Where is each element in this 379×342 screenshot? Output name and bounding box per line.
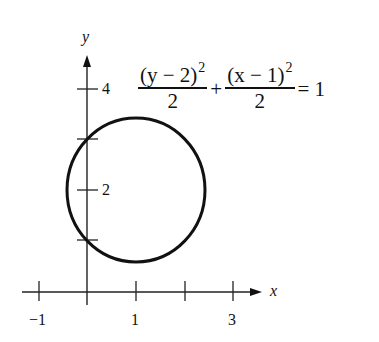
- exponent-y: 2: [198, 60, 205, 75]
- graph: −1 1 3 2 4 x y: [0, 0, 379, 342]
- y-tick-label-4: 4: [102, 80, 110, 97]
- y-axis-arrow-icon: [83, 55, 91, 67]
- equals-one: = 1: [298, 77, 326, 102]
- plus-sign: +: [210, 77, 222, 102]
- equation: (y − 2)2 2 + (x − 1)2 2 = 1: [138, 56, 328, 113]
- numerator-y-text: (y − 2): [140, 63, 197, 87]
- fraction-x-term: (x − 1)2 2: [225, 56, 294, 113]
- x-ticks: [39, 281, 233, 301]
- x-axis-label: x: [269, 282, 277, 299]
- x-tick-label-neg1: −1: [29, 311, 46, 328]
- fraction-y-term: (y − 2)2 2: [138, 56, 207, 113]
- numerator-x: (x − 1)2: [225, 56, 294, 87]
- denominator-x: 2: [255, 89, 266, 113]
- denominator-y: 2: [167, 89, 178, 113]
- x-tick-label-3: 3: [228, 311, 236, 328]
- x-tick-label-1: 1: [131, 311, 139, 328]
- exponent-x: 2: [286, 60, 293, 75]
- x-axis-arrow-icon: [250, 288, 262, 296]
- y-tick-label-2: 2: [102, 181, 110, 198]
- numerator-y: (y − 2)2: [138, 56, 207, 87]
- numerator-x-text: (x − 1): [227, 63, 284, 87]
- y-axis-label: y: [80, 28, 90, 46]
